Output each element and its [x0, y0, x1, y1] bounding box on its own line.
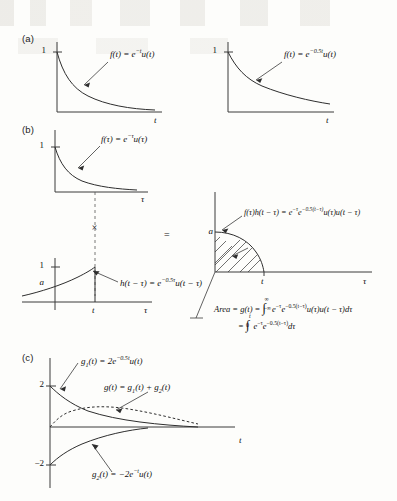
- y-tick-one-b-bottom: 1: [28, 260, 44, 270]
- area-eq2-exp-b: −0.5(t−τ): [267, 320, 288, 326]
- curve-c-g2: [50, 428, 148, 465]
- x-tick-t-b-bottom: t: [92, 305, 95, 315]
- curve-c-gsum: [50, 407, 198, 427]
- label-g1-rhs: u(t): [130, 356, 143, 366]
- curve-label-c-g1: g1(t) = 2e−0.5tu(t): [81, 355, 143, 368]
- y-tick-a-b-bottom: a: [28, 277, 44, 287]
- panel-label-c: (c): [22, 352, 34, 363]
- x-tick-t-b-result: t: [261, 276, 264, 286]
- label-gsum-lhs: g(t) = g: [104, 382, 132, 392]
- label-g1-mid: (t) = 2e: [89, 356, 117, 366]
- curve-label-a-right-lhs: f(t) = e: [284, 49, 310, 59]
- label-gsum-mid: (t) + g: [135, 382, 159, 392]
- y-tick-negative-c: −2: [22, 458, 44, 468]
- curve-label-b-bottom-rhs: u(t − τ): [175, 278, 202, 288]
- label-gsum-rhs: (t): [162, 382, 171, 392]
- x-axis-label-b-bottom: τ: [144, 305, 147, 315]
- curve-label-b-top: f(τ) = e−τu(τ): [101, 133, 147, 144]
- area-eq2-tail: dτ: [288, 321, 295, 331]
- curve-label-b-result-exp2: −0.5(t−τ): [302, 206, 324, 212]
- area-eq2-lead: =: [238, 321, 246, 331]
- x-axis-label-b-top: τ: [141, 194, 144, 204]
- integral-lower-1: −∞: [263, 305, 271, 311]
- y-tick-a-left: 1: [30, 45, 46, 55]
- curve-label-a-left-lhs: f(t) = e: [110, 49, 136, 59]
- area-eq-tail: u(τ)u(t − τ)dτ: [307, 304, 353, 314]
- curve-b-top: [55, 147, 137, 190]
- curve-label-a-left: f(t) = e−tu(t): [110, 48, 154, 59]
- x-axis-label-c: t: [239, 435, 242, 445]
- area-equation-line1: Area = g(t) = ∫∞−∞ e−τe−0.5(t−τ)u(τ)u(t …: [214, 300, 352, 316]
- panel-label-a: (a): [22, 33, 34, 44]
- label-g2-mid: (t) = −2e: [100, 469, 134, 479]
- curve-label-b-result-rhs: u(τ)u(t − τ): [323, 208, 360, 217]
- curve-label-b-result: f(τ)h(t − τ) = e−τe−0.5(t−τ)u(τ)u(t − τ): [244, 206, 360, 217]
- area-eq-lead: Area = g(t) =: [214, 304, 262, 314]
- curve-label-b-bottom-lhs: h(t − τ) = e: [120, 278, 161, 288]
- y-tick-positive-c: 2: [28, 379, 44, 389]
- curve-label-b-bottom-exp: −0.5τ: [161, 277, 175, 283]
- curve-label-c-gsum: g(t) = g1(t) + g2(t): [104, 382, 170, 394]
- curve-label-a-left-rhs: u(t): [141, 49, 154, 59]
- curve-b-result: [215, 232, 264, 272]
- curve-label-c-g2: g2(t) = −2e−tu(t): [92, 468, 152, 481]
- curve-label-a-right: f(t) = e−0.5tu(t): [284, 48, 336, 59]
- label-g2-rhs: u(t): [139, 469, 152, 479]
- x-axis-label-b-result: τ: [363, 276, 366, 286]
- integral-upper-1: ∞: [264, 296, 268, 302]
- curve-a-right: [228, 52, 330, 104]
- x-axis-label-a-right: t: [326, 115, 329, 125]
- y-tick-a-right: 1: [201, 45, 217, 55]
- multiply-symbol: ×: [91, 222, 98, 233]
- y-tick-b-top: 1: [28, 140, 44, 150]
- figure-linework: [0, 0, 397, 501]
- area-equation-line2: = ∫t0 e−τe−0.5(t−τ)dτ: [238, 317, 295, 333]
- integral-lower-2: 0: [246, 322, 249, 328]
- curve-label-b-top-lhs: f(τ) = e: [101, 134, 127, 144]
- panel-label-b: (b): [22, 124, 34, 135]
- label-g1-exp: −0.5t: [116, 355, 129, 361]
- curve-label-b-top-rhs: u(τ): [134, 134, 148, 144]
- scan-texture-top: [0, 0, 397, 26]
- curve-a-left: [57, 52, 155, 110]
- curve-label-b-bottom: h(t − τ) = e−0.5τu(t − τ): [120, 277, 202, 288]
- x-axis-label-a-left: t: [154, 115, 157, 125]
- curve-label-a-right-exp: −0.5t: [310, 48, 323, 54]
- y-tick-a-b-result: a: [201, 226, 213, 236]
- curve-label-b-result-lhs: f(τ)h(t − τ) = e: [244, 208, 292, 217]
- equals-symbol: =: [164, 229, 170, 240]
- integral-upper-2: t: [249, 313, 251, 319]
- curve-label-a-right-rhs: u(t): [323, 49, 336, 59]
- area-eq-exp-b: −0.5(t−τ): [285, 303, 306, 309]
